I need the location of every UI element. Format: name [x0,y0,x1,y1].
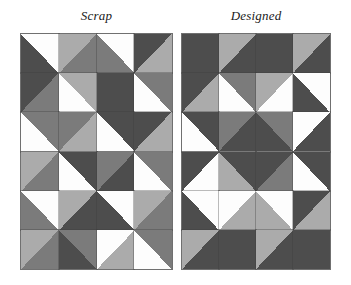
half-square-triangle-pair [59,112,97,151]
quilt-cell [59,230,97,269]
panel-designed: Designed [181,0,331,270]
half-square-triangle-pair [293,73,330,112]
half-square-triangle-pair [97,73,135,112]
quilt-cell [293,230,330,269]
quilt-cell [97,152,135,191]
quilt-cell [219,112,256,151]
half-square-triangle-pair [219,230,256,269]
quilt-cell [97,191,135,230]
quilt-cell [134,191,172,230]
quilt-cell [293,152,330,191]
quilt-cell [256,112,293,151]
half-square-triangle-pair [293,34,330,73]
half-square-triangle-pair [134,73,172,112]
quilt-cell [134,34,172,73]
half-square-triangle-pair [21,152,59,191]
half-square-triangle-pair [59,73,97,112]
quilt-cell [134,112,172,151]
quilt-cell [21,73,59,112]
half-square-triangle-pair [134,34,172,73]
quilt-cell [219,230,256,269]
quilt-cell [59,112,97,151]
quilt-cell [293,34,330,73]
quilt-cell [182,230,219,269]
quilt-cell [134,230,172,269]
quilt-cell [182,34,219,73]
quilt-cell [97,73,135,112]
quilt-cell [219,73,256,112]
quilt-cell [256,34,293,73]
half-square-triangle-pair [182,112,219,151]
quilt-cell [21,230,59,269]
quilt-cell [182,112,219,151]
quilt-grid-designed [181,33,331,270]
half-square-triangle-pair [256,152,293,191]
quilt-cell [97,112,135,151]
half-square-triangle-pair [21,112,59,151]
half-square-triangle-pair [256,191,293,230]
quilt-cell [59,191,97,230]
panel-title-scrap: Scrap [20,8,173,24]
quilt-cell [21,152,59,191]
quilt-cell [256,152,293,191]
half-square-triangle-pair [97,112,135,151]
quilt-cell [219,152,256,191]
panel-title-designed: Designed [181,8,331,24]
half-square-triangle-pair [293,152,330,191]
quilt-cell [182,73,219,112]
half-square-triangle-pair [293,112,330,151]
half-square-triangle-pair [256,112,293,151]
half-square-triangle-pair [21,34,59,73]
half-square-triangle-pair [219,191,256,230]
quilt-cell [134,152,172,191]
half-square-triangle-pair [256,230,293,269]
half-square-triangle-pair [219,34,256,73]
quilt-cell [134,73,172,112]
quilt-cell [59,73,97,112]
half-square-triangle-pair [134,191,172,230]
quilt-cell [21,112,59,151]
quilt-cell [256,73,293,112]
quilt-cell [21,191,59,230]
half-square-triangle-pair [59,152,97,191]
half-square-triangle-pair [182,73,219,112]
quilt-cell [293,191,330,230]
half-square-triangle-pair [182,152,219,191]
quilt-cell [59,34,97,73]
half-square-triangle-pair [219,73,256,112]
quilt-cell [182,152,219,191]
quilt-cell [182,191,219,230]
quilt-cell [256,191,293,230]
half-square-triangle-pair [97,230,135,269]
half-square-triangle-pair [97,152,135,191]
half-square-triangle-pair [134,112,172,151]
half-square-triangle-pair [134,230,172,269]
quilt-cell [219,191,256,230]
quilt-cell [97,230,135,269]
half-square-triangle-pair [59,230,97,269]
half-square-triangle-pair [293,191,330,230]
quilt-cell [21,34,59,73]
quilt-cell [293,112,330,151]
quilt-cell [59,152,97,191]
half-square-triangle-pair [182,230,219,269]
half-square-triangle-pair [59,191,97,230]
half-square-triangle-pair [97,191,135,230]
half-square-triangle-pair [21,191,59,230]
quilt-cell [97,34,135,73]
half-square-triangle-pair [219,152,256,191]
half-square-triangle-pair [59,34,97,73]
half-square-triangle-pair [134,152,172,191]
panel-scrap: Scrap [20,0,173,270]
quilt-grid-scrap [20,33,173,270]
half-square-triangle-pair [293,230,330,269]
quilt-comparison-figure: ScrapDesigned [0,0,351,285]
half-square-triangle-pair [256,34,293,73]
half-square-triangle-pair [219,112,256,151]
quilt-cell [256,230,293,269]
half-square-triangle-pair [182,191,219,230]
half-square-triangle-pair [97,34,135,73]
quilt-cell [219,34,256,73]
half-square-triangle-pair [21,230,59,269]
half-square-triangle-pair [21,73,59,112]
